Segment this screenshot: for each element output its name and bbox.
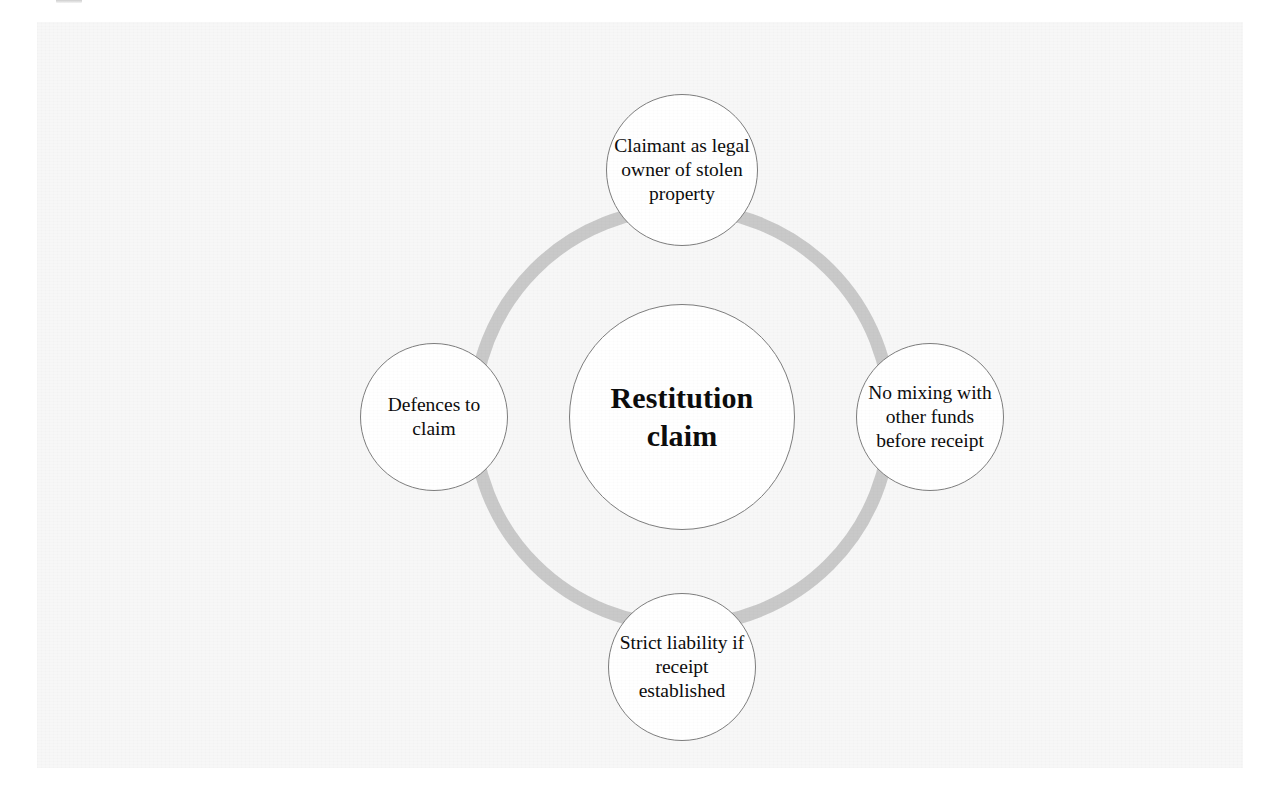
node-left-label: Defences to claim bbox=[361, 393, 507, 441]
node-restitution-claim[interactable]: Restitution claim bbox=[569, 304, 795, 530]
page-root: Claimant as legal owner of stolen proper… bbox=[0, 0, 1280, 797]
figure-panel: Claimant as legal owner of stolen proper… bbox=[37, 22, 1243, 768]
node-bottom-label: Strict liability if receipt established bbox=[609, 631, 755, 702]
node-strict-liability[interactable]: Strict liability if receipt established bbox=[608, 593, 756, 741]
node-center-label: Restitution claim bbox=[570, 379, 794, 455]
node-defences-to-claim[interactable]: Defences to claim bbox=[360, 343, 508, 491]
restitution-claim-diagram: Claimant as legal owner of stolen proper… bbox=[37, 22, 1243, 768]
node-top-label: Claimant as legal owner of stolen proper… bbox=[607, 134, 757, 205]
node-right-label: No mixing with other funds before receip… bbox=[857, 381, 1003, 452]
node-claimant-legal-owner[interactable]: Claimant as legal owner of stolen proper… bbox=[606, 94, 758, 246]
cropped-text-remnant bbox=[56, 0, 82, 3]
node-no-mixing-with-other-funds[interactable]: No mixing with other funds before receip… bbox=[856, 343, 1004, 491]
